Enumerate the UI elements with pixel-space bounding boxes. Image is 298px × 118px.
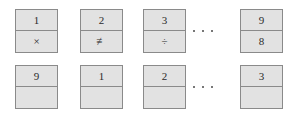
card-top-cell: 3 — [241, 66, 282, 87]
card-row1-col1[interactable]: 1 × — [15, 9, 58, 53]
card-bottom-cell: 8 — [241, 31, 282, 52]
ellipsis-row1 — [193, 26, 213, 36]
empty-cell — [241, 87, 282, 108]
card-row1-col3[interactable]: 3 ÷ — [143, 9, 186, 53]
empty-cell — [144, 87, 185, 108]
card-row2-col3[interactable]: 2 — [143, 65, 186, 109]
card-row1-col4[interactable]: 9 8 — [240, 9, 283, 53]
card-top-cell: 1 — [81, 66, 122, 87]
card-row2-col2[interactable]: 1 — [80, 65, 123, 109]
division-sign-icon: ÷ — [144, 31, 185, 52]
card-top-cell: 2 — [81, 10, 122, 31]
card-top-cell: 9 — [241, 10, 282, 31]
ellipsis-dot — [211, 30, 213, 32]
empty-cell — [81, 87, 122, 108]
card-top-cell: 1 — [16, 10, 57, 31]
card-row2-col1[interactable]: 9 — [15, 65, 58, 109]
card-top-cell: 3 — [144, 10, 185, 31]
multiplication-sign-icon: × — [16, 31, 57, 52]
ellipsis-dot — [193, 30, 195, 32]
not-identical-to-sign-icon: ≢ — [81, 31, 122, 52]
ellipsis-dot — [202, 30, 204, 32]
ellipsis-dot — [193, 86, 195, 88]
empty-cell — [16, 87, 57, 108]
card-row2-col4[interactable]: 3 — [240, 65, 283, 109]
ellipsis-row2 — [193, 82, 213, 92]
ellipsis-dot — [202, 86, 204, 88]
diagram-canvas: 1 × 2 ≢ 3 ÷ 9 8 9 1 2 3 — [0, 0, 298, 118]
card-top-cell: 2 — [144, 66, 185, 87]
ellipsis-dot — [211, 86, 213, 88]
card-top-cell: 9 — [16, 66, 57, 87]
card-row1-col2[interactable]: 2 ≢ — [80, 9, 123, 53]
